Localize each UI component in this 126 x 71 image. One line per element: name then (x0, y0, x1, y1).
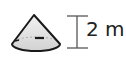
edge-mark (15, 40, 19, 41)
height-dimension-marker (67, 16, 88, 48)
height-label: 2 m (86, 17, 125, 41)
cone-shape (12, 15, 60, 51)
